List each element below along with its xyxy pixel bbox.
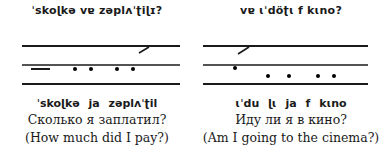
english-translation: (Am I going to the cinema?): [194, 130, 388, 145]
ipa-transcription-bottom: ɩˈdu ɭɩ ja f kɩno: [194, 97, 388, 110]
syllable-dot: [131, 67, 135, 71]
english-translation: (How much did I pay?): [0, 130, 194, 145]
ipa-transcription-bottom: ˈskoɭkə ja zəplʌˈʈil: [0, 97, 194, 110]
russian-sentence: Иду ли я в кино?: [194, 112, 388, 127]
intonation-example-1: ˈskoɭkə vɐ zəplʌˈʈiɭɪ? ˈskoɭkə ja zəplʌˈ…: [0, 0, 194, 156]
syllable-dot: [332, 74, 336, 78]
syllable-dot: [115, 67, 119, 71]
syllable-dot: [316, 74, 320, 78]
intonation-example-2: vɐ ɩˈdöʈɩ f kɩno? ɩˈdu ɭɩ ja f kɩno Иду …: [194, 0, 388, 156]
rising-tone-mark: [238, 47, 249, 54]
stressed-syllable-dot: [233, 66, 237, 70]
syllable-dot: [73, 67, 77, 71]
russian-sentence: Сколько я заплатил?: [0, 112, 194, 127]
rising-tone-mark: [139, 47, 149, 53]
syllable-dot: [287, 74, 291, 78]
syllable-dot: [89, 67, 93, 71]
syllable-dot: [266, 74, 270, 78]
